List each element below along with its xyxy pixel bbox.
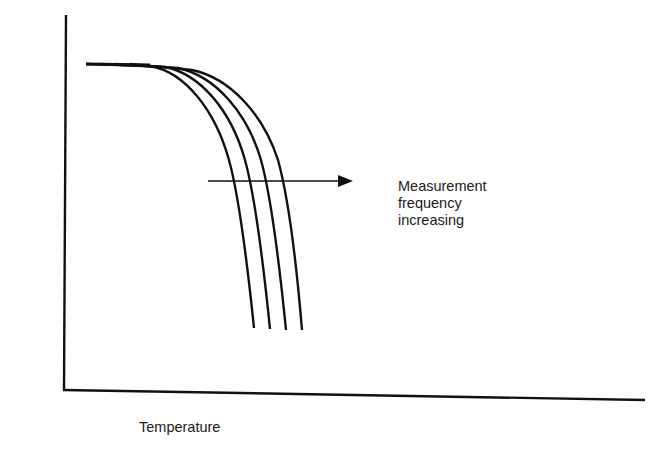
frequency-arrow-head (338, 175, 353, 187)
curve-frequency-4 (130, 64, 302, 330)
curve-frequency-1 (86, 64, 254, 328)
y-axis (64, 15, 66, 391)
x-axis (63, 390, 645, 400)
chart-canvas (0, 0, 656, 449)
curve-frequency-3 (115, 64, 286, 330)
x-axis-label: Temperature (139, 419, 220, 436)
curve-frequency-2 (100, 64, 270, 329)
annotation-label: Measurement frequency increasing (398, 178, 487, 229)
